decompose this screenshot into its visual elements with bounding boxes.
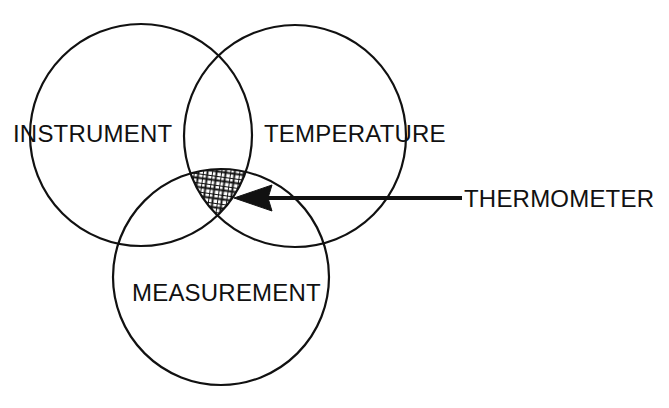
venn-diagram-root: INSTRUMENT TEMPERATURE MEASUREMENT THERM… (0, 0, 669, 408)
callout-label-thermometer: THERMOMETER (464, 185, 654, 212)
set-label-measurement: MEASUREMENT (132, 279, 321, 306)
venn-diagram-canvas: INSTRUMENT TEMPERATURE MEASUREMENT THERM… (0, 0, 669, 408)
set-label-temperature: TEMPERATURE (264, 120, 446, 147)
set-label-instrument: INSTRUMENT (13, 120, 172, 147)
